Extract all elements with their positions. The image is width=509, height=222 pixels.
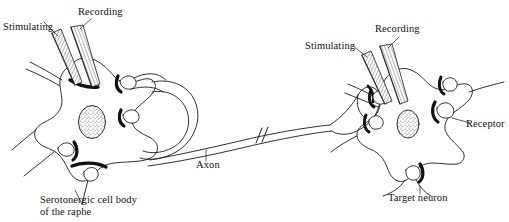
label-recording-right: Recording [375, 23, 420, 35]
neuron-diagram-figure: Stimulating Recording Stimulating Record… [0, 0, 509, 222]
label-stimulating-right: Stimulating [305, 40, 355, 52]
label-axon: Axon [196, 159, 220, 171]
label-receptor: Receptor [466, 118, 505, 130]
synaptic-boutons-left [58, 74, 166, 181]
diagram-canvas [0, 0, 509, 222]
recurrent-collateral [140, 81, 198, 159]
label-stimulating-left: Stimulating [3, 21, 53, 33]
label-recording-left: Recording [78, 6, 123, 18]
label-target-neuron: Target neuron [388, 192, 448, 204]
nucleus-left [79, 106, 106, 139]
label-serotonergic-cell-body: Serotonergic cell body of the raphe [40, 194, 137, 217]
receptor-bouton [437, 103, 454, 118]
nucleus-right [397, 110, 419, 138]
